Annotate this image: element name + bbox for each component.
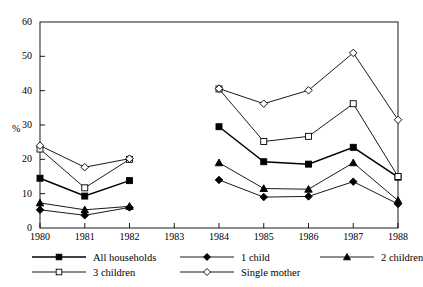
series-single-mother <box>36 49 402 171</box>
data-point-marker <box>350 144 356 150</box>
legend-label: 1 child <box>241 252 270 263</box>
data-point-marker <box>350 178 358 186</box>
legend-swatch-filled-square-icon <box>30 251 88 263</box>
legend-swatch-filled-triangle-icon <box>318 251 376 263</box>
data-point-marker <box>260 100 268 108</box>
legend-label: 3 children <box>93 267 135 278</box>
legend-item: 1 child <box>178 251 270 263</box>
data-point-marker <box>36 206 44 214</box>
data-point-marker <box>215 176 223 184</box>
data-point-marker <box>127 178 133 184</box>
data-point-marker <box>215 159 223 166</box>
chart-legend: All households1 child2 children3 childre… <box>30 251 410 283</box>
data-point-marker <box>216 124 222 130</box>
data-point-marker <box>261 159 267 165</box>
legend-swatch-filled-diamond-icon <box>178 251 236 263</box>
data-point-marker <box>56 254 62 260</box>
legend-item: Single mother <box>178 266 300 278</box>
data-point-marker <box>305 193 313 201</box>
series-3-children <box>37 86 401 191</box>
series-1-child <box>36 176 402 219</box>
legend-label: Single mother <box>241 267 300 278</box>
legend-swatch-open-square-icon <box>30 266 88 278</box>
data-point-marker <box>82 185 88 191</box>
data-point-marker <box>306 161 312 167</box>
legend-label: All households <box>93 252 156 263</box>
series-2-children <box>36 159 402 213</box>
data-point-marker <box>81 163 89 171</box>
legend-swatch-open-diamond-icon <box>178 266 236 278</box>
data-point-marker <box>37 175 43 181</box>
data-point-marker <box>306 133 312 139</box>
data-point-marker <box>261 138 267 144</box>
data-point-marker <box>394 116 402 124</box>
data-point-marker <box>82 193 88 199</box>
legend-item: 2 children <box>318 251 423 263</box>
data-point-marker <box>260 193 268 201</box>
data-point-marker <box>36 199 44 206</box>
data-point-marker <box>204 254 211 261</box>
data-point-marker <box>350 159 358 166</box>
legend-label: 2 children <box>381 252 423 263</box>
legend-item: 3 children <box>30 266 135 278</box>
data-point-marker <box>350 101 356 107</box>
data-point-marker <box>204 269 211 276</box>
data-point-marker <box>56 269 62 275</box>
data-point-marker <box>395 174 401 180</box>
legend-item: All households <box>30 251 156 263</box>
